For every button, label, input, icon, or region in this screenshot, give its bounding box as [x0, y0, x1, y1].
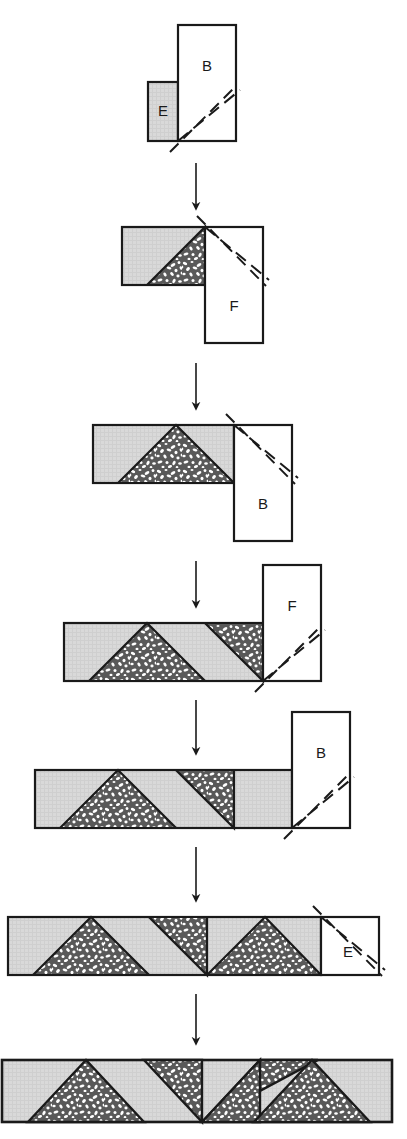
stage-2: F: [122, 216, 269, 343]
stage-3-strip: [93, 425, 234, 483]
stage-7-strip: [2, 1060, 392, 1122]
block-label-B: B: [258, 495, 268, 512]
stage-4-strip: [64, 623, 263, 681]
stage-4: F: [64, 565, 325, 692]
stage-3: B: [93, 414, 298, 541]
stage-5-attached-block-B[interactable]: B: [292, 712, 350, 828]
block-label-F: F: [229, 297, 238, 314]
stage-5: B: [35, 712, 354, 839]
stage-5-strip: [35, 770, 292, 828]
stage-3-attached-block-B[interactable]: B: [234, 425, 292, 541]
stage-1-block-E[interactable]: E: [158, 102, 168, 119]
stage-6-strip: [8, 917, 321, 975]
block-label-F: F: [287, 597, 296, 614]
stage-1: E B: [148, 25, 240, 152]
block-label-E: E: [343, 943, 353, 960]
stage-7: [2, 1060, 392, 1122]
stage-6: E: [8, 906, 385, 976]
block-label-B: B: [202, 57, 212, 74]
stage-4-attached-block-F[interactable]: F: [263, 565, 321, 681]
stage-1-attached-block-B[interactable]: B: [178, 25, 236, 141]
diagram-canvas: E B F: [0, 0, 407, 1139]
stage-6-attached-block-E[interactable]: E: [321, 917, 379, 975]
stage-2-attached-block-F[interactable]: F: [205, 227, 263, 343]
assembly-diagram: E B F: [0, 0, 407, 1139]
stage-2-strip: [122, 227, 205, 285]
block-label-E: E: [158, 102, 168, 119]
block-label-B: B: [316, 744, 326, 761]
